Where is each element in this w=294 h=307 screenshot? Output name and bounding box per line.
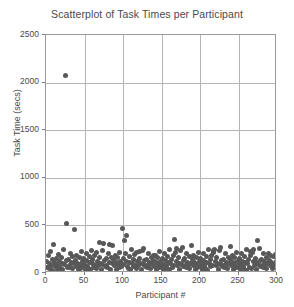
gridline-vertical (200, 35, 201, 271)
gridline-horizontal (46, 178, 275, 179)
x-tick-mark (238, 272, 239, 275)
x-tick-label: 200 (179, 276, 219, 285)
x-tick-mark (45, 272, 46, 275)
scatter-point (51, 242, 56, 247)
scatter-point (274, 259, 276, 264)
scatter-point (273, 252, 276, 257)
scatter-point (257, 246, 262, 251)
x-tick-label: 250 (218, 276, 258, 285)
scatter-point (208, 257, 213, 262)
x-tick-mark (276, 272, 277, 275)
x-tick-mark (161, 272, 162, 275)
scatterplot-figure: Scatterplot of Task Times per Participan… (0, 0, 294, 307)
scatter-point (94, 250, 99, 255)
scatter-point (72, 227, 77, 232)
x-tick-label: 50 (64, 276, 104, 285)
x-tick-label: 300 (256, 276, 294, 285)
scatter-point (255, 238, 260, 243)
plot-area (45, 34, 276, 272)
y-tick-mark (42, 224, 45, 225)
scatter-point (48, 249, 53, 254)
scatter-point (120, 226, 125, 231)
x-axis-label: Participant # (45, 290, 276, 300)
scatter-point (246, 257, 251, 262)
gridline-vertical (162, 35, 163, 271)
x-tick-label: 100 (102, 276, 142, 285)
scatter-point (251, 247, 256, 252)
scatter-point (63, 73, 68, 78)
y-tick-mark (42, 34, 45, 35)
scatter-point (117, 250, 122, 255)
scatter-point (228, 244, 233, 249)
gridline-horizontal (46, 130, 275, 131)
x-tick-mark (199, 272, 200, 275)
scatter-point (218, 245, 223, 250)
y-axis-label: Task Time (secs) (12, 58, 22, 188)
scatter-point (122, 238, 127, 243)
scatter-point (169, 257, 174, 262)
y-tick-label: 500 (0, 220, 39, 229)
x-tick-label: 150 (141, 276, 181, 285)
gridline-vertical (85, 35, 86, 271)
scatter-point (180, 245, 185, 250)
chart-title: Scatterplot of Task Times per Participan… (0, 8, 294, 20)
scatter-point (100, 248, 105, 253)
scatter-point (89, 248, 94, 253)
scatter-point (110, 243, 115, 248)
scatter-point (141, 246, 146, 251)
scatter-point (61, 247, 66, 252)
x-tick-mark (84, 272, 85, 275)
gridline-horizontal (46, 225, 275, 226)
gridline-vertical (239, 35, 240, 271)
y-tick-mark (42, 82, 45, 83)
x-tick-label: 0 (25, 276, 65, 285)
scatter-point (172, 237, 177, 242)
scatter-point (189, 243, 194, 248)
scatter-point (124, 233, 129, 238)
scatter-point (101, 241, 106, 246)
scatter-point (167, 247, 172, 252)
x-tick-mark (122, 272, 123, 275)
y-tick-label: 2500 (0, 30, 39, 39)
y-tick-mark (42, 129, 45, 130)
y-tick-mark (42, 177, 45, 178)
gridline-horizontal (46, 83, 275, 84)
